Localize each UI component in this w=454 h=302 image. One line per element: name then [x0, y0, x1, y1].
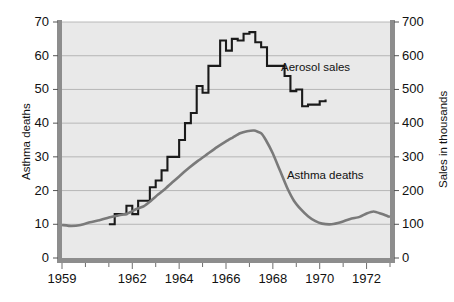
right-tick-label: 700 [402, 14, 424, 29]
right-tick-label: 600 [402, 48, 424, 63]
left-tick-label: 0 [0, 250, 49, 265]
x-tick-label: 1959 [40, 271, 84, 286]
left-tick-label: 20 [0, 183, 49, 198]
right-tick-label: 300 [402, 149, 424, 164]
right-tick-label: 200 [402, 183, 424, 198]
chart-figure: 0102030405060700100200300400500600700195… [0, 0, 454, 302]
x-tick-label: 1968 [251, 271, 295, 286]
chart-svg [0, 0, 454, 302]
series-annotation-asthma-deaths: Asthma deaths [287, 169, 364, 181]
right-tick-label: 0 [402, 250, 409, 265]
x-tick-label: 1962 [110, 271, 154, 286]
right-tick-label: 500 [402, 81, 424, 96]
left-tick-label: 50 [0, 81, 49, 96]
x-tick-label: 1964 [157, 271, 201, 286]
right-tick-label: 400 [402, 115, 424, 130]
left-axis-title: Asthma deaths [20, 103, 32, 180]
right-axis-title: Sales in thousands [437, 91, 449, 188]
x-tick-label: 1970 [298, 271, 342, 286]
left-tick-label: 10 [0, 216, 49, 231]
series-annotation-aerosol-sales: Aerosol sales [281, 61, 350, 73]
x-ticks [62, 263, 390, 269]
x-tick-label: 1972 [345, 271, 389, 286]
left-tick-label: 60 [0, 48, 49, 63]
right-tick-label: 100 [402, 216, 424, 231]
left-tick-label: 70 [0, 14, 49, 29]
x-tick-label: 1966 [204, 271, 248, 286]
